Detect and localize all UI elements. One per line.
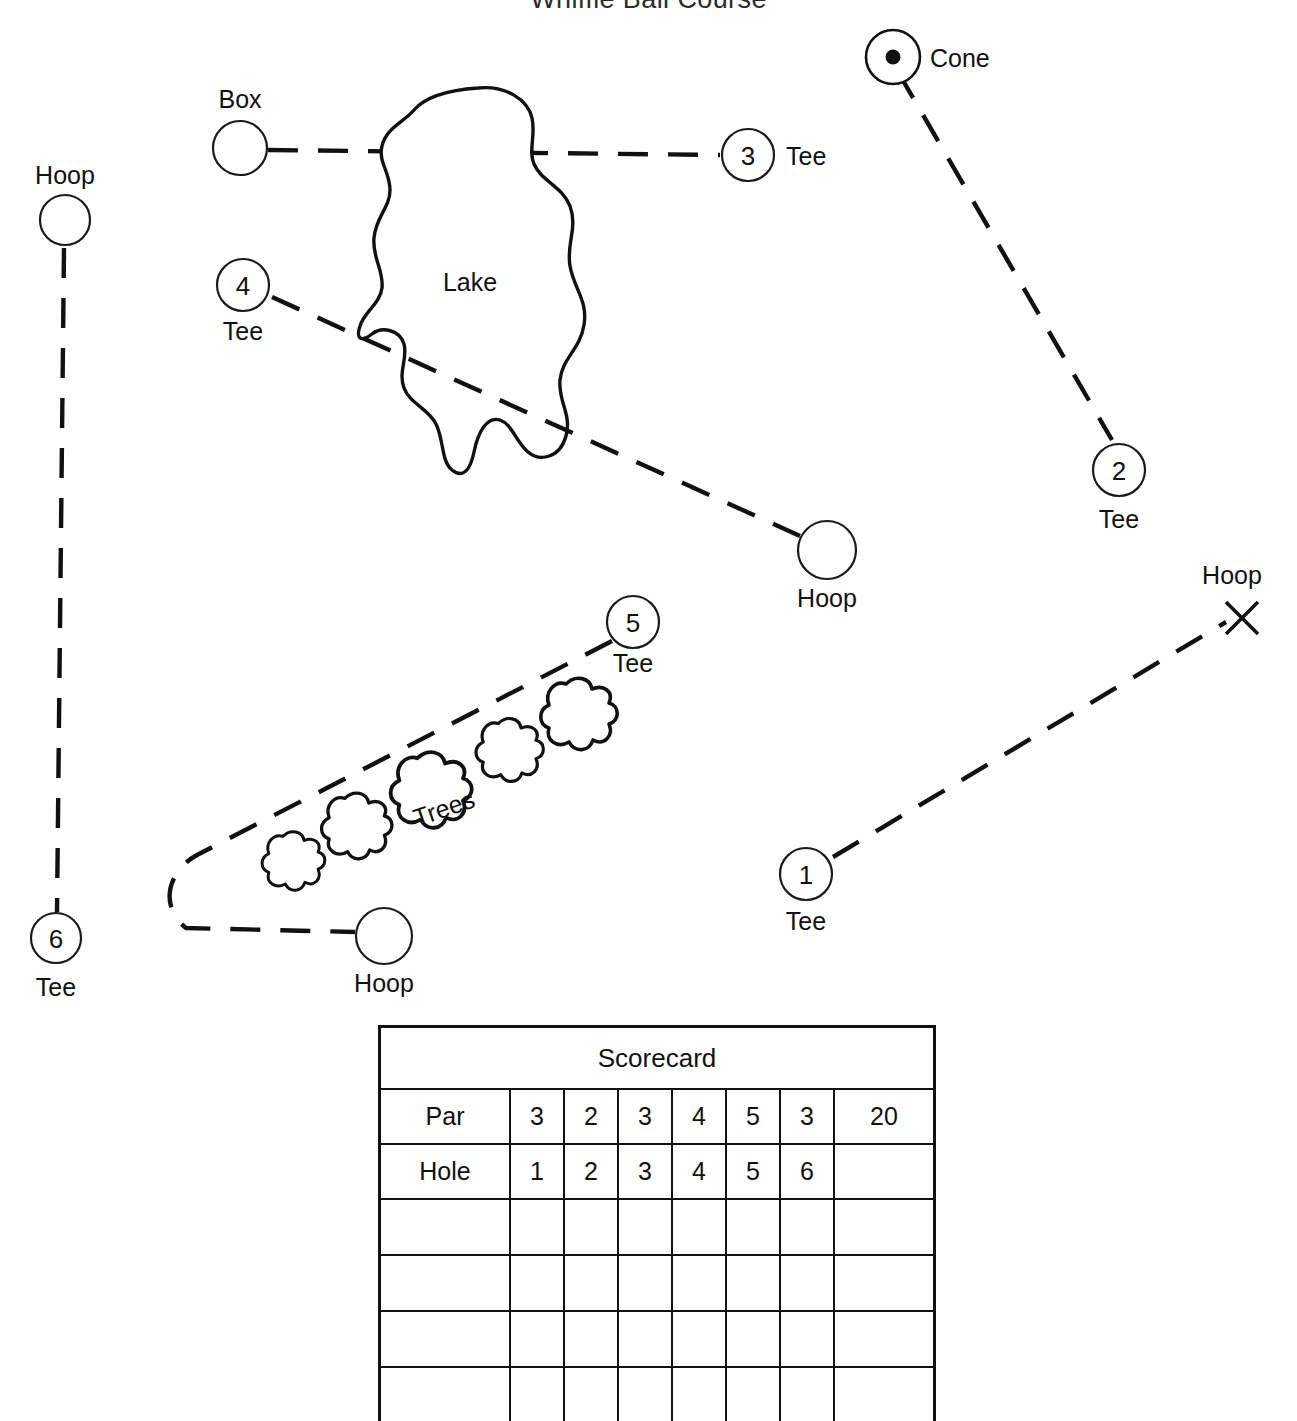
- hole-number-3[interactable]: 3: [618, 1144, 672, 1199]
- score-cell[interactable]: [672, 1367, 726, 1421]
- score-cell[interactable]: [780, 1311, 834, 1367]
- score-cell[interactable]: [510, 1199, 564, 1255]
- tree-icon: [541, 678, 618, 749]
- score-cell[interactable]: [618, 1255, 672, 1311]
- score-cell[interactable]: [510, 1367, 564, 1421]
- hole-6-group: Hoop 6 Tee: [31, 161, 95, 1001]
- score-total-cell[interactable]: [834, 1367, 935, 1421]
- hole-number-5[interactable]: 5: [726, 1144, 780, 1199]
- score-cell[interactable]: [510, 1311, 564, 1367]
- par-hole-3[interactable]: 3: [618, 1089, 672, 1144]
- score-cell[interactable]: [780, 1367, 834, 1421]
- table-row: [380, 1199, 935, 1255]
- score-cell[interactable]: [564, 1367, 618, 1421]
- score-cell[interactable]: [726, 1367, 780, 1421]
- hole-1-number: 1: [799, 860, 813, 890]
- table-row: [380, 1311, 935, 1367]
- score-total-cell[interactable]: [834, 1199, 935, 1255]
- par-hole-6[interactable]: 3: [780, 1089, 834, 1144]
- scorecard-table: Scorecard Par 3 2 3 4 5 3 20 Hole 1 2 3: [378, 1025, 936, 1421]
- score-cell[interactable]: [564, 1311, 618, 1367]
- box-marker[interactable]: [213, 121, 267, 175]
- hole-2-tee-label: Tee: [1099, 505, 1139, 533]
- hole-1-hoop-x-icon[interactable]: [1226, 602, 1258, 634]
- score-cell[interactable]: [510, 1255, 564, 1311]
- hole-5-number: 5: [626, 608, 640, 638]
- hole-4-hoop-marker[interactable]: [798, 521, 856, 579]
- score-total-cell[interactable]: [834, 1311, 935, 1367]
- hole-number-4[interactable]: 4: [672, 1144, 726, 1199]
- hole-1-hoop-label: Hoop: [1202, 561, 1262, 589]
- par-hole-2[interactable]: 2: [564, 1089, 618, 1144]
- score-cell[interactable]: [780, 1199, 834, 1255]
- course-map-page: Whiffle Ball Course Cone 2 Tee Box 3 Tee…: [0, 0, 1297, 1421]
- score-cell[interactable]: [780, 1255, 834, 1311]
- tree-icon: [476, 719, 543, 782]
- hole-6-hoop-label: Hoop: [35, 161, 95, 189]
- score-cell[interactable]: [618, 1199, 672, 1255]
- score-cell[interactable]: [672, 1199, 726, 1255]
- score-cell[interactable]: [672, 1311, 726, 1367]
- hole-5-tee-label: Tee: [613, 649, 653, 677]
- hole-4-tee-label: Tee: [223, 317, 263, 345]
- lake-label: Lake: [443, 268, 497, 296]
- par-hole-4[interactable]: 4: [672, 1089, 726, 1144]
- scorecard-title: Scorecard: [380, 1027, 935, 1090]
- trees-group: Trees: [262, 678, 617, 890]
- hole-number-6[interactable]: 6: [780, 1144, 834, 1199]
- hole-5-hoop-label: Hoop: [354, 969, 414, 997]
- score-cell[interactable]: [618, 1311, 672, 1367]
- table-row: [380, 1367, 935, 1421]
- hole-6-tee-label: Tee: [36, 973, 76, 1001]
- player-name-cell[interactable]: [380, 1311, 511, 1367]
- par-hole-5[interactable]: 5: [726, 1089, 780, 1144]
- hole-1-path: [833, 622, 1226, 857]
- tree-icon: [322, 793, 392, 859]
- hole-2-group: Cone 2 Tee: [866, 30, 1145, 533]
- hole-4-number: 4: [236, 271, 250, 301]
- hole-4-hoop-label: Hoop: [797, 584, 857, 612]
- hole-6-path: [57, 248, 64, 912]
- hole-1-group: 1 Tee Hoop: [780, 561, 1262, 935]
- box-label: Box: [218, 85, 262, 113]
- hole-2-path: [898, 72, 1112, 440]
- player-name-cell[interactable]: [380, 1255, 511, 1311]
- hole-number-1[interactable]: 1: [510, 1144, 564, 1199]
- tree-icon: [262, 832, 325, 891]
- score-cell[interactable]: [726, 1255, 780, 1311]
- hole-6-hoop-marker[interactable]: [40, 195, 90, 245]
- lake-group: Lake: [359, 88, 585, 474]
- player-name-cell[interactable]: [380, 1367, 511, 1421]
- hole-1-tee-label: Tee: [786, 907, 826, 935]
- player-name-cell[interactable]: [380, 1199, 511, 1255]
- cone-dot-icon: [886, 50, 901, 65]
- score-cell[interactable]: [564, 1199, 618, 1255]
- hole-3-tee-label: Tee: [786, 142, 826, 170]
- hole-6-number: 6: [49, 924, 63, 954]
- table-row: Hole 1 2 3 4 5 6: [380, 1144, 935, 1199]
- score-cell[interactable]: [726, 1311, 780, 1367]
- par-row-label: Par: [380, 1089, 511, 1144]
- table-row: Par 3 2 3 4 5 3 20: [380, 1089, 935, 1144]
- score-cell[interactable]: [564, 1255, 618, 1311]
- scorecard-title-row: Scorecard: [380, 1027, 935, 1090]
- hole-row-label: Hole: [380, 1144, 511, 1199]
- hole-number-2[interactable]: 2: [564, 1144, 618, 1199]
- cone-label: Cone: [930, 44, 990, 72]
- course-diagram: Cone 2 Tee Box 3 Tee Lake 4 Tee Hoop: [0, 0, 1297, 1030]
- hole-5-hoop-marker[interactable]: [356, 908, 412, 964]
- score-total-cell[interactable]: [834, 1255, 935, 1311]
- score-cell[interactable]: [672, 1255, 726, 1311]
- hole-total[interactable]: [834, 1144, 935, 1199]
- scorecard-container: Scorecard Par 3 2 3 4 5 3 20 Hole 1 2 3: [378, 1025, 936, 1421]
- par-hole-1[interactable]: 3: [510, 1089, 564, 1144]
- par-total[interactable]: 20: [834, 1089, 935, 1144]
- table-row: [380, 1255, 935, 1311]
- score-cell[interactable]: [726, 1199, 780, 1255]
- hole-2-number: 2: [1112, 456, 1126, 486]
- hole-3-number: 3: [741, 141, 755, 171]
- score-cell[interactable]: [618, 1367, 672, 1421]
